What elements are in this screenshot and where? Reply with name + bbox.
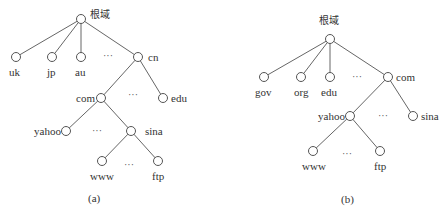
node-a-edu <box>159 94 168 103</box>
label-a-sina: sina <box>145 125 163 137</box>
node-a-root <box>77 15 86 24</box>
node-b-www <box>309 147 318 156</box>
label-a-au: au <box>75 66 85 78</box>
label-a-root: 根域 <box>90 9 110 21</box>
node-a-au <box>77 53 86 62</box>
label-b-yahoo: yahoo <box>318 110 345 122</box>
label-a-uk: uk <box>9 66 20 78</box>
label-a-ftp: ftp <box>152 170 164 182</box>
node-a-com <box>97 94 106 103</box>
node-b-root <box>326 35 335 44</box>
ellipsis-a-com: ··· <box>92 127 102 135</box>
tree-edges <box>0 0 446 213</box>
label-a-cn: cn <box>148 51 158 63</box>
label-b-ftp: ftp <box>374 160 386 172</box>
node-b-com <box>384 73 393 82</box>
ellipsis-a-level1: ··· <box>103 52 113 60</box>
node-a-sina <box>127 127 136 136</box>
node-b-edu <box>326 73 335 82</box>
label-b-www: www <box>302 160 326 172</box>
label-a-edu: edu <box>171 92 187 104</box>
ellipsis-b-yahoo: ··· <box>342 150 352 158</box>
node-b-gov <box>260 73 269 82</box>
node-b-org <box>297 73 306 82</box>
label-a-www: www <box>90 170 114 182</box>
node-a-uk <box>12 53 21 62</box>
node-b-ftp <box>376 147 385 156</box>
caption-b: (b) <box>341 193 354 205</box>
node-a-ftp <box>154 157 163 166</box>
node-a-yahoo <box>62 127 71 136</box>
node-b-sina <box>409 112 418 121</box>
node-a-cn <box>134 53 143 62</box>
node-a-www <box>98 157 107 166</box>
ellipsis-a-cn: ··· <box>128 91 138 99</box>
label-b-gov: gov <box>255 86 272 98</box>
ellipsis-b-level1: ··· <box>352 73 362 81</box>
node-a-jp <box>48 53 57 62</box>
node-b-yahoo <box>346 112 355 121</box>
label-a-jp: jp <box>47 66 56 78</box>
label-b-com: com <box>396 71 415 83</box>
label-b-sina: sina <box>421 110 439 122</box>
ellipsis-a-sina: ··· <box>124 161 134 169</box>
label-b-edu: edu <box>321 86 337 98</box>
label-a-com: com <box>76 92 95 104</box>
ellipsis-b-com: ··· <box>378 112 388 120</box>
label-b-org: org <box>294 86 308 98</box>
label-b-root: 根域 <box>319 15 339 27</box>
label-a-yahoo: yahoo <box>34 125 61 137</box>
caption-a: (a) <box>88 192 100 204</box>
